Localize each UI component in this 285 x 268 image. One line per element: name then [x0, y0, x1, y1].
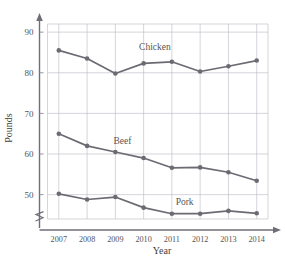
data-point-pork-2013 [226, 209, 231, 214]
y-axis-break-icon [36, 212, 44, 221]
x-axis-arrow-icon [273, 227, 281, 234]
data-point-chicken-2008 [85, 56, 90, 61]
y-axis-arrow-icon [36, 13, 43, 21]
x-tick-label: 2007 [51, 235, 67, 244]
x-axis-tick-labels: 20072008200920102011201220132014 [51, 235, 265, 244]
data-point-beef-2012 [198, 165, 203, 170]
series-label-chicken: Chicken [139, 42, 171, 52]
data-point-pork-2010 [141, 205, 146, 210]
y-tick-label: 50 [25, 190, 35, 200]
data-point-chicken-2013 [226, 64, 231, 69]
data-point-pork-2014 [254, 211, 259, 216]
data-point-pork-2008 [85, 197, 90, 202]
meat-consumption-line-chart: 5060708090 20072008200920102011201220132… [0, 0, 285, 268]
data-point-beef-2010 [141, 156, 146, 161]
y-axis-title: Pounds [3, 113, 14, 143]
series-labels: ChickenBeefPork [113, 42, 193, 207]
data-point-pork-2009 [113, 195, 118, 200]
gridlines [48, 24, 269, 219]
x-tick-label: 2013 [220, 235, 236, 244]
y-axis-tick-labels: 5060708090 [25, 27, 44, 200]
data-point-chicken-2010 [141, 61, 146, 66]
data-point-beef-2009 [113, 150, 118, 155]
data-point-beef-2008 [85, 144, 90, 149]
data-point-chicken-2014 [254, 58, 259, 63]
y-tick-label: 80 [25, 68, 35, 78]
series-label-beef: Beef [113, 136, 132, 146]
series-label-pork: Pork [176, 197, 194, 207]
x-tick-label: 2014 [249, 235, 265, 244]
data-point-beef-2014 [254, 179, 259, 184]
data-point-chicken-2012 [198, 69, 203, 74]
x-tick-label: 2010 [135, 235, 151, 244]
data-point-pork-2012 [198, 211, 203, 216]
data-point-chicken-2009 [113, 71, 118, 76]
y-tick-label: 90 [25, 27, 35, 37]
data-point-beef-2007 [57, 131, 62, 136]
data-point-beef-2011 [170, 166, 175, 171]
x-axis-title: Year [153, 245, 172, 256]
y-tick-label: 60 [25, 149, 35, 159]
data-point-pork-2007 [57, 192, 62, 197]
data-point-beef-2013 [226, 170, 231, 175]
data-point-pork-2011 [170, 211, 175, 216]
chart-canvas: 5060708090 20072008200920102011201220132… [0, 0, 285, 268]
x-tick-label: 2009 [107, 235, 123, 244]
y-tick-label: 70 [25, 109, 35, 119]
x-tick-label: 2011 [164, 235, 180, 244]
series-line-chicken [59, 50, 257, 73]
x-tick-label: 2008 [79, 235, 95, 244]
data-point-chicken-2007 [57, 48, 62, 53]
x-tick-label: 2012 [192, 235, 208, 244]
data-point-chicken-2011 [170, 59, 175, 64]
